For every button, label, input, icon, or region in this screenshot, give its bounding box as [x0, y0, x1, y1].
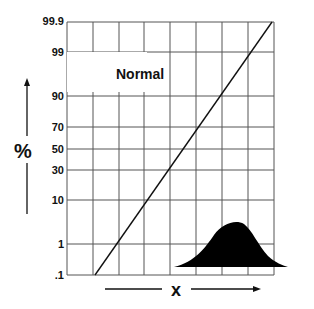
chart-title: Normal — [116, 66, 164, 82]
y-tick-0.1: .1 — [24, 270, 64, 281]
y-tick-99: 99 — [24, 47, 64, 58]
y-tick-30: 30 — [24, 165, 64, 176]
y-tick-70: 70 — [24, 122, 64, 133]
y-tick-1: 1 — [24, 239, 64, 250]
right-arrowhead-icon — [253, 286, 261, 292]
y-tick-99.9: 99.9 — [24, 16, 64, 27]
up-arrowhead-icon — [24, 78, 30, 86]
y-axis-label: % — [14, 140, 32, 163]
bell-curve-shape — [174, 222, 288, 267]
y-tick-10: 10 — [24, 195, 64, 206]
x-axis-label: x — [171, 280, 181, 301]
y-tick-90: 90 — [24, 91, 64, 102]
